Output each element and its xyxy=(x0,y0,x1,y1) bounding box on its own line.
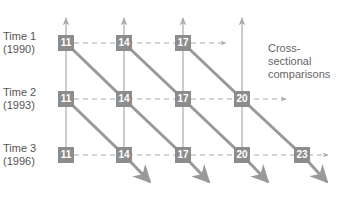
age-box-t2-c4: 20 xyxy=(234,91,250,107)
diagonal-line-3b xyxy=(242,99,302,155)
row-label-time1-line2: (1990) xyxy=(3,43,36,56)
age-box-t3-c2: 14 xyxy=(116,147,132,163)
age-box-t2-c1: 11 xyxy=(58,91,74,107)
row-label-time2-line1: Time 2 xyxy=(3,86,36,99)
age-box-t2-c2: 14 xyxy=(116,91,132,107)
row-label-time1: Time 1 (1990) xyxy=(3,30,36,56)
vertical-lines xyxy=(66,18,242,155)
annotation-line2: sectional xyxy=(268,55,330,68)
row-label-time3-line1: Time 3 xyxy=(3,142,36,155)
row-label-time2: Time 2 (1993) xyxy=(3,86,36,112)
row-label-time3: Time 3 (1996) xyxy=(3,142,36,168)
age-box-t1-c1: 11 xyxy=(58,35,74,51)
age-box-t3-c5: 23 xyxy=(294,147,310,163)
age-box-t3-c1: 11 xyxy=(58,147,74,163)
annotation-line1: Cross- xyxy=(268,42,330,55)
age-box-t2-c3: 17 xyxy=(175,91,191,107)
age-box-t1-c3: 17 xyxy=(175,35,191,51)
row-label-time3-line2: (1996) xyxy=(3,155,36,168)
row-label-time1-line1: Time 1 xyxy=(3,30,36,43)
age-box-t3-c3: 17 xyxy=(175,147,191,163)
annotation-line3: comparisons xyxy=(268,68,330,81)
cross-sectional-annotation: Cross- sectional comparisons xyxy=(268,42,330,81)
age-box-t3-c4: 20 xyxy=(234,147,250,163)
age-box-t1-c2: 14 xyxy=(116,35,132,51)
row-label-time2-line2: (1993) xyxy=(3,99,36,112)
cohort-sequential-diagram xyxy=(0,0,343,199)
